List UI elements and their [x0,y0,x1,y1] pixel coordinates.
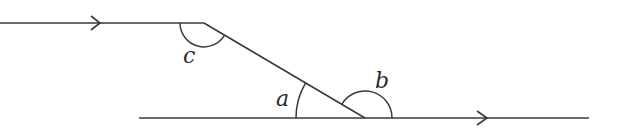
angle-a-label: a [276,86,289,111]
angle-c-label: c [183,43,195,68]
angle-b-arc [342,91,392,118]
geometry-diagram: c a b [0,0,618,132]
angle-a-arc [296,83,306,118]
angle-b-label: b [375,68,389,93]
